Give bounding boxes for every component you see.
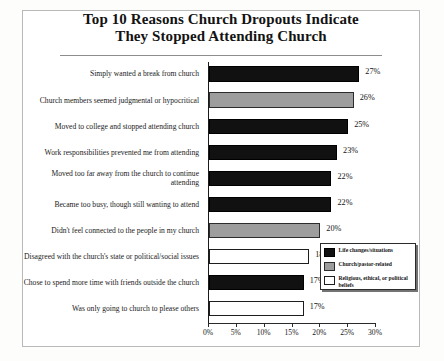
bar-track: 17%: [209, 296, 419, 322]
x-tick-label: 20%: [312, 328, 326, 337]
x-tick-mark: [292, 323, 293, 327]
bar-row: Moved too far away from the church to co…: [23, 165, 419, 191]
bar-row: Didn't feel connected to the people in m…: [23, 218, 419, 244]
bar-value-label: 27%: [365, 67, 380, 76]
category-label: Didn't feel connected to the people in m…: [23, 218, 203, 244]
legend-label: Church/pastor-related: [339, 261, 392, 267]
legend-swatch-gray: [324, 262, 335, 272]
bar-row: Became too busy, though still wanting to…: [23, 192, 419, 218]
legend-swatch-black: [324, 248, 335, 258]
x-tick-mark: [236, 323, 237, 327]
x-tick-label: 25%: [340, 328, 354, 337]
legend-item: Church/pastor-related: [324, 261, 412, 273]
bar-track: 22%: [209, 165, 419, 191]
bar-track: 27%: [209, 61, 419, 87]
bar-life-changes: [209, 145, 337, 160]
chart-legend: Life changes/situationsChurch/pastor-rel…: [320, 243, 416, 290]
x-tick-mark: [208, 323, 209, 327]
x-tick-label: 15%: [285, 328, 299, 337]
bar-track: 20%: [209, 218, 419, 244]
bar-beliefs: [209, 249, 309, 264]
x-tick-label: 10%: [257, 328, 271, 337]
category-label: Moved to college and stopped attending c…: [23, 113, 203, 139]
legend-item: Religious, ethical, or political beliefs: [324, 275, 412, 287]
chart-page: Top 10 Reasons Church Dropouts Indicate …: [0, 0, 444, 361]
bar-row: Church members seemed judgmental or hypo…: [23, 87, 419, 113]
bar-track: 22%: [209, 192, 419, 218]
category-label: Became too busy, though still wanting to…: [23, 192, 203, 218]
category-label: Work responsibilities prevented me from …: [23, 139, 203, 165]
x-tick-label: 5%: [231, 328, 241, 337]
bar-value-label: 26%: [360, 93, 375, 102]
category-label: Disagreed with the church's state or pol…: [23, 244, 203, 270]
category-label: Moved too far away from the church to co…: [23, 165, 203, 191]
x-tick-mark: [347, 323, 348, 327]
bar-church-pastor: [209, 223, 320, 238]
bar-value-label: 17%: [310, 302, 325, 311]
bar-life-changes: [209, 275, 304, 290]
legend-label: Life changes/situations: [339, 247, 394, 253]
bar-life-changes: [209, 119, 348, 134]
bar-row: Was only going to church to please other…: [23, 296, 419, 322]
x-tick-mark: [264, 323, 265, 327]
category-label: Was only going to church to please other…: [23, 296, 203, 322]
bar-value-label: 22%: [337, 198, 352, 207]
bar-track: 25%: [209, 113, 419, 139]
category-label: Church members seemed judgmental or hypo…: [23, 87, 203, 113]
bar-life-changes: [209, 66, 359, 81]
bar-track: 26%: [209, 87, 419, 113]
category-label: Simply wanted a break from church: [23, 61, 203, 87]
bar-beliefs: [209, 301, 304, 316]
bar-life-changes: [209, 171, 331, 186]
title-divider: [60, 55, 382, 56]
x-tick-mark: [319, 323, 320, 327]
bar-row: Simply wanted a break from church27%: [23, 61, 419, 87]
bar-track: 23%: [209, 139, 419, 165]
bar-row: Work responsibilities prevented me from …: [23, 139, 419, 165]
bar-church-pastor: [209, 92, 354, 107]
category-label: Chose to spend more time with friends ou…: [23, 270, 203, 296]
bar-value-label: 22%: [337, 172, 352, 181]
x-tick-label: 30%: [368, 328, 382, 337]
legend-label: Religious, ethical, or political beliefs: [339, 275, 413, 287]
x-tick-mark: [375, 323, 376, 327]
legend-item: Life changes/situations: [324, 247, 412, 259]
legend-swatch-white: [324, 276, 335, 286]
x-axis-ticks: 0%5%10%15%20%25%30%: [208, 323, 388, 345]
chart-title-line-1: Top 10 Reasons Church Dropouts Indicate: [23, 11, 419, 28]
bar-life-changes: [209, 197, 331, 212]
bar-value-label: 25%: [354, 120, 369, 129]
bar-value-label: 20%: [326, 224, 341, 233]
bar-value-label: 23%: [343, 146, 358, 155]
chart-title-line-2: They Stopped Attending Church: [23, 28, 419, 45]
x-tick-label: 0%: [203, 328, 213, 337]
plot-area: Simply wanted a break from church27%Chur…: [23, 60, 419, 346]
chart-title: Top 10 Reasons Church Dropouts Indicate …: [23, 11, 419, 45]
bar-row: Moved to college and stopped attending c…: [23, 113, 419, 139]
